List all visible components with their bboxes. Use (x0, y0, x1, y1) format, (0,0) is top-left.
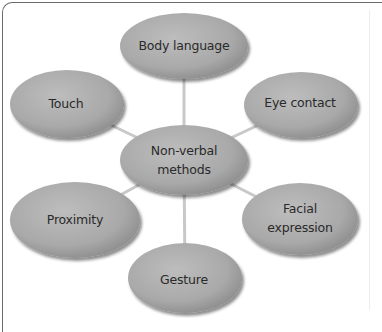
label-facial-line2: expression (267, 218, 332, 237)
label-non-verbal-methods: Non-verbal methods (151, 141, 217, 179)
label-proximity: Proximity (47, 210, 103, 229)
label-facial-expression: Facial expression (267, 199, 332, 237)
label-body-language: Body language (138, 36, 229, 55)
label-non-verbal-line2: methods (151, 160, 217, 179)
label-eye-contact: Eye contact (264, 93, 336, 112)
label-non-verbal-line1: Non-verbal (151, 141, 217, 160)
label-gesture: Gesture (160, 270, 208, 289)
label-facial-line1: Facial (267, 199, 332, 218)
label-touch: Touch (49, 94, 84, 113)
